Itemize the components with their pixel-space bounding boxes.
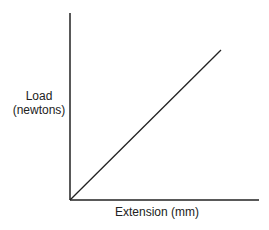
y-axis-label-line2: (newtons) xyxy=(10,103,68,117)
y-axis-label-line1: Load xyxy=(10,89,68,103)
x-axis-label: Extension (mm) xyxy=(115,205,199,219)
y-axis-label: Load (newtons) xyxy=(10,89,68,117)
data-line xyxy=(70,50,221,200)
